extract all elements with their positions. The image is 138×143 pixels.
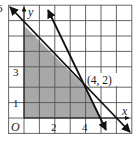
x-axis-label: x xyxy=(121,104,128,118)
x-tick-2: 2 xyxy=(51,121,57,133)
origin-label: O xyxy=(11,120,20,134)
y-tick-1: 1 xyxy=(13,97,19,109)
y-tick-3: 3 xyxy=(13,66,19,78)
intersection-label: (4, 2) xyxy=(87,74,112,87)
x-tick-4: 4 xyxy=(82,121,88,133)
y-axis-label: y xyxy=(27,5,34,19)
inequality-graph: y x O 2 4 1 3 6 (4, 2) xyxy=(0,0,138,143)
partial-label-6: 6 xyxy=(0,2,3,14)
